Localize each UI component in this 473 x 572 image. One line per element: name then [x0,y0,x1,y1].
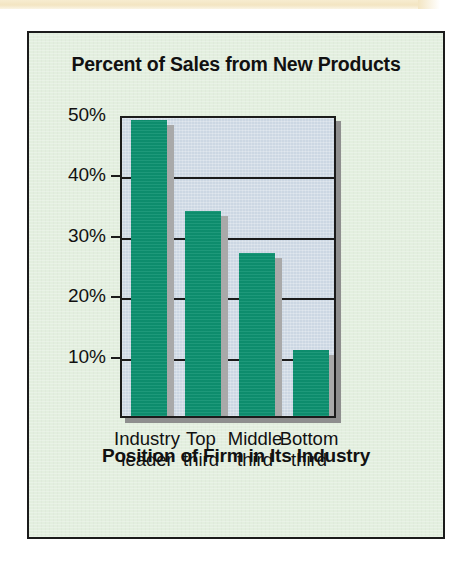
y-tick-mark-30% [111,236,120,238]
bar-top-third [185,211,221,416]
chart-title: Percent of Sales from New Products [29,53,443,76]
y-tick-label-10%: 10% [68,346,106,368]
plot-area-wrapper [120,116,336,418]
figure-card: Percent of Sales from New Products 10%20… [27,31,445,539]
figure-screenshot: Percent of Sales from New Products 10%20… [0,0,473,572]
y-tick-label-50%: 50% [68,104,106,126]
paper-edge-strip [0,0,432,9]
y-tick-mark-10% [111,357,120,359]
paper-edge-strip-fade [418,0,440,9]
x-axis-title: Position of Firm in Its Industry [29,445,443,467]
plot-area [120,116,336,418]
bar-industry-leader [131,120,167,416]
y-tick-mark-40% [111,175,120,177]
y-tick-label-40%: 40% [68,164,106,186]
bars-layer [122,118,334,416]
bar-bottom-third [293,350,329,416]
y-tick-label-20%: 20% [68,285,106,307]
y-tick-label-30%: 30% [68,225,106,247]
bar-middle-third [239,253,275,416]
y-tick-mark-20% [111,296,120,298]
